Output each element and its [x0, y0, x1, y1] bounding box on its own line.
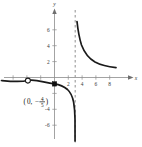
y-tick-label-6: 6: [47, 27, 50, 33]
left-branch-curve: [2, 80, 76, 141]
graph-figure: x y 2 4 6 8 6: [0, 0, 142, 147]
x-tick-label-2: 2: [67, 81, 70, 87]
annotation-fraction-denominator: 5: [41, 102, 44, 108]
y-tick-label-neg6: -6: [45, 122, 50, 128]
x-tick-label-8: 8: [108, 81, 111, 87]
x-axis-arrow-icon: [128, 75, 134, 79]
annotation-minus-sign: −: [35, 98, 39, 106]
y-tick-label-neg4: -4: [45, 106, 50, 112]
y-axis-label: y: [52, 1, 56, 7]
annotation-fraction-numerator: 4: [41, 96, 44, 102]
rational-function-plot: x y 2 4 6 8 6: [0, 0, 142, 147]
x-axis-label: x: [134, 75, 138, 81]
y-tick-label-2: 2: [47, 59, 50, 65]
filled-square-marker: [52, 82, 56, 86]
right-branch-curve: [77, 22, 116, 68]
annotation-x-value: 0,: [27, 98, 33, 106]
y-axis-arrow-icon: [52, 9, 56, 14]
open-circle-marker: [25, 78, 30, 83]
annotation-close-paren: ): [46, 98, 49, 106]
x-tick-label-6: 6: [95, 81, 98, 87]
y-tick-label-4: 4: [47, 43, 50, 49]
x-tick-label-4: 4: [81, 81, 84, 87]
